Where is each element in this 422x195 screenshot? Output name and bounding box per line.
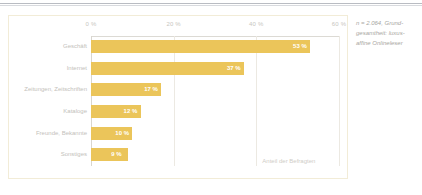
bar-value-label: 12 % bbox=[124, 105, 138, 118]
x-tick-label: 20 % bbox=[166, 21, 180, 27]
top-divider-line bbox=[0, 3, 422, 4]
category-label: Sonstiges bbox=[61, 148, 87, 161]
bar[interactable] bbox=[91, 62, 244, 75]
gridline-60 bbox=[339, 36, 340, 166]
x-axis-tick-labels: 0 %20 %40 %60 % bbox=[91, 21, 339, 34]
x-tick-label: 40 % bbox=[249, 21, 263, 27]
top-divider-line-secondary bbox=[0, 5, 422, 6]
chart-source-note: n = 2.064, Grund- gesamtheit: luxus- aff… bbox=[356, 18, 418, 48]
category-label: Geschäft bbox=[63, 40, 87, 53]
source-note-line-1: n = 2.064, Grund- bbox=[356, 18, 418, 28]
bar-value-label: 9 % bbox=[111, 148, 121, 161]
bar[interactable] bbox=[91, 148, 128, 161]
bar[interactable] bbox=[91, 40, 310, 53]
x-tick-label: 60 % bbox=[332, 21, 346, 27]
bar-row: 37 % bbox=[91, 58, 339, 80]
bar-row: 12 % bbox=[91, 101, 339, 123]
source-note-line-2: gesamtheit: luxus- bbox=[356, 28, 418, 38]
bar-value-label: 53 % bbox=[293, 40, 307, 53]
bar-row: 53 % bbox=[91, 36, 339, 58]
bar-value-label: 17 % bbox=[144, 83, 158, 96]
category-labels: GeschäftInternetZeitungen, Zeitschriften… bbox=[11, 36, 87, 166]
bar-row: 10 % bbox=[91, 123, 339, 145]
bar-row: 17 % bbox=[91, 79, 339, 101]
bar-value-label: 37 % bbox=[227, 62, 241, 75]
chart-frame: 0 %20 %40 %60 % 53 %37 %17 %12 %10 %9 % … bbox=[8, 15, 348, 179]
x-axis-caption: Anteil der Befragten bbox=[262, 158, 315, 164]
source-note-line-3: affine Onlineleser bbox=[356, 38, 418, 48]
bar-value-label: 10 % bbox=[115, 127, 129, 140]
plot-area: 53 %37 %17 %12 %10 %9 % Anteil der Befra… bbox=[91, 36, 339, 166]
x-tick-label: 0 % bbox=[86, 21, 97, 27]
category-label: Internet bbox=[67, 62, 87, 75]
category-label: Zeitungen, Zeitschriften bbox=[24, 83, 87, 96]
category-label: Kataloge bbox=[63, 105, 87, 118]
category-label: Freunde, Bekannte bbox=[36, 127, 87, 140]
